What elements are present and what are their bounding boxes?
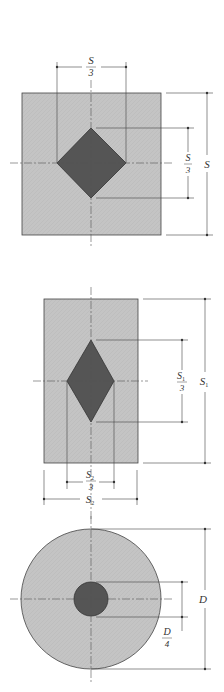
- label-right-inner-den: 4: [165, 639, 170, 649]
- dimension-dot: [66, 481, 68, 483]
- figure-circle-circle: D 4 D: [10, 516, 211, 683]
- label-right-inner-num: S1: [177, 370, 185, 382]
- label-bottom-outer: S2: [86, 493, 95, 506]
- label-top-num: S: [88, 54, 94, 66]
- label-right-inner-num: S: [186, 152, 191, 163]
- label-right-inner-den: 3: [185, 165, 191, 175]
- dimension-dot: [56, 66, 58, 68]
- label-bottom-inner-den: 3: [88, 482, 94, 492]
- dimension-dot: [113, 481, 115, 483]
- dimension-dot: [206, 234, 208, 236]
- dimension-dot: [187, 197, 189, 199]
- dimension-dot: [125, 66, 127, 68]
- dimension-dot: [181, 421, 183, 423]
- figure-rectangle-diamond: S1 3 S1 S2 3 S2: [33, 287, 211, 520]
- dimension-dot: [43, 498, 45, 500]
- label-bottom-inner-num: S2: [86, 469, 94, 481]
- kern-diagram: S 3 S 3 S S1 3: [0, 0, 224, 692]
- label-right-inner-den: 3: [179, 383, 185, 393]
- dimension-dot: [206, 92, 208, 94]
- figure-square-diamond: S 3 S 3 S: [10, 54, 213, 247]
- dimension-dot: [204, 668, 206, 670]
- label-right-outer: S: [204, 158, 210, 170]
- dimension-dot: [204, 528, 206, 530]
- label-right-outer: S1: [200, 375, 209, 388]
- dimension-dot: [181, 616, 183, 618]
- dimension-dot: [204, 462, 206, 464]
- dimension-dot: [187, 127, 189, 129]
- dimension-dot: [181, 339, 183, 341]
- dimension-dot: [204, 298, 206, 300]
- label-top-den: 3: [88, 67, 94, 78]
- label-right-outer: D: [198, 593, 207, 605]
- dimension-dot: [136, 498, 138, 500]
- dimension-dot: [181, 581, 183, 583]
- label-right-inner-num: D: [162, 626, 171, 637]
